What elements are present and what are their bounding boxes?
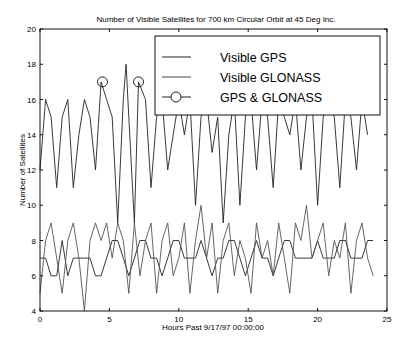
x-tick-label: 0 bbox=[38, 315, 43, 324]
y-tick-label: 12 bbox=[27, 166, 36, 175]
y-tick-label: 10 bbox=[27, 201, 36, 210]
y-tick-label: 14 bbox=[27, 131, 36, 140]
y-tick-label: 6 bbox=[32, 272, 37, 281]
y-tick-label: 4 bbox=[32, 307, 37, 316]
chart-figure: Number of Visible Satellites for 700 km … bbox=[0, 0, 410, 344]
x-tick-label: 5 bbox=[107, 315, 112, 324]
legend-label-gps: Visible GPS bbox=[220, 51, 286, 65]
y-tick-label: 20 bbox=[27, 25, 36, 34]
legend: Visible GPS Visible GLONASS GPS & GLONAS… bbox=[155, 36, 380, 115]
x-tick-label: 25 bbox=[383, 315, 392, 324]
y-tick-label: 18 bbox=[27, 60, 36, 69]
legend-label-combined: GPS & GLONASS bbox=[220, 91, 322, 105]
y-tick-label: 16 bbox=[27, 96, 36, 105]
legend-label-glonass: Visible GLONASS bbox=[220, 71, 321, 85]
x-axis-label: Hours Past 9/17/97 00:00:00 bbox=[162, 323, 264, 332]
legend-circle-marker-icon bbox=[171, 92, 181, 102]
chart-title: Number of Visible Satellites for 700 km … bbox=[96, 15, 335, 24]
x-tick-label: 20 bbox=[313, 315, 322, 324]
y-tick-label: 8 bbox=[32, 237, 37, 246]
y-axis-label: Number of Satellites bbox=[18, 134, 27, 206]
